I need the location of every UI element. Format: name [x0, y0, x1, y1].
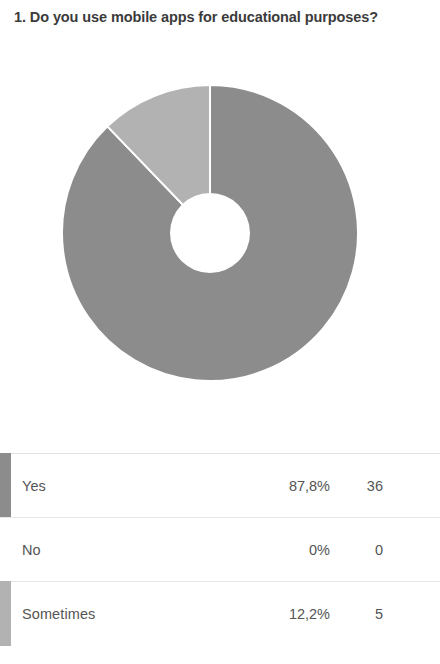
row-count: 5: [330, 606, 440, 622]
page-title: 1. Do you use mobile apps for educationa…: [14, 7, 418, 28]
row-count: 36: [330, 478, 440, 494]
table-row[interactable]: Yes 87,8% 36: [0, 453, 440, 517]
row-percent: 12,2%: [232, 606, 330, 622]
row-count: 0: [330, 542, 440, 558]
row-label: No: [0, 542, 232, 558]
results-table: Yes 87,8% 36 No 0% 0 Sometimes 12,2% 5: [0, 453, 440, 645]
row-percent: 0%: [232, 542, 330, 558]
row-percent: 87,8%: [232, 478, 330, 494]
donut-chart-svg: [0, 62, 440, 407]
table-row[interactable]: Sometimes 12,2% 5: [0, 581, 440, 645]
row-label: Sometimes: [0, 606, 232, 622]
table-row[interactable]: No 0% 0: [0, 517, 440, 581]
legend-swatch-sometimes: [0, 581, 11, 646]
legend-swatch-yes: [0, 453, 11, 518]
row-label: Yes: [0, 478, 232, 494]
donut-center-hole: [170, 193, 250, 273]
donut-chart: [0, 62, 440, 407]
survey-result-page: 1. Do you use mobile apps for educationa…: [0, 0, 440, 664]
legend-swatch-no: [0, 517, 11, 582]
